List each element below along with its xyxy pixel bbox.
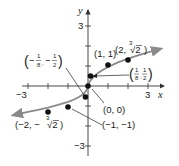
leader-lines bbox=[66, 68, 129, 125]
point-1 bbox=[105, 62, 111, 68]
svg-text:,: , bbox=[140, 73, 142, 79]
svg-text:1: 1 bbox=[53, 53, 57, 59]
svg-text:(2,: (2, bbox=[115, 44, 126, 55]
point-neg2 bbox=[45, 109, 51, 115]
svg-text:): ) bbox=[148, 66, 153, 82]
y-tick-label-3: 3 bbox=[78, 20, 83, 31]
x-tick-label-3: 3 bbox=[145, 89, 150, 100]
svg-text:(−2, −: (−2, − bbox=[15, 119, 40, 130]
cube-root-curve bbox=[14, 49, 160, 115]
svg-text:−: − bbox=[29, 55, 35, 66]
point-neg1 bbox=[65, 104, 71, 110]
y-axis-label: y bbox=[77, 5, 83, 16]
point-neg-eighth bbox=[83, 94, 89, 100]
svg-text:(: ( bbox=[129, 66, 134, 82]
label-point-neg-eighth: ( − 1 8 , − 1 2 ) bbox=[24, 53, 63, 69]
label-point-2: (2, 3 √2 ) bbox=[115, 40, 147, 55]
svg-text:2: 2 bbox=[53, 62, 57, 68]
point-origin bbox=[85, 83, 91, 89]
label-point-1: (1, 1) bbox=[94, 48, 116, 59]
svg-text:8: 8 bbox=[37, 62, 41, 68]
svg-text:1: 1 bbox=[135, 67, 139, 73]
svg-text:1: 1 bbox=[143, 67, 147, 73]
svg-text:−: − bbox=[45, 55, 51, 66]
svg-text:): ) bbox=[58, 53, 63, 69]
svg-text:): ) bbox=[144, 44, 147, 55]
svg-text:): ) bbox=[60, 119, 63, 130]
x-axis-label: x bbox=[157, 89, 163, 100]
label-point-neg2: (−2, − 3 √2 ) bbox=[15, 115, 63, 130]
svg-text:8: 8 bbox=[135, 75, 139, 81]
svg-text:2: 2 bbox=[143, 75, 147, 81]
label-origin: (0, 0) bbox=[103, 104, 125, 115]
x-tick-label-neg3: −3 bbox=[16, 89, 27, 100]
cube-root-graph: x y −3 3 3 −3 (1, 1) (2, 3 √2 ) ( bbox=[0, 0, 179, 166]
label-point-eighth: ( 1 8 , 1 2 ) bbox=[129, 66, 153, 82]
y-tick-label-neg3: −3 bbox=[74, 140, 85, 151]
svg-text:,: , bbox=[42, 60, 44, 66]
label-point-neg1: (−1, −1) bbox=[102, 119, 135, 130]
point-2 bbox=[125, 57, 131, 63]
svg-text:1: 1 bbox=[37, 53, 41, 59]
